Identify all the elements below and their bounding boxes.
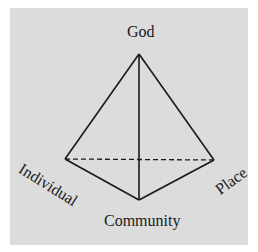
edge-god-place: [139, 54, 214, 160]
vertex-label-community: Community: [104, 212, 180, 230]
vertex-label-god: God: [127, 23, 155, 41]
edge-community-place: [139, 160, 214, 200]
edge-individual-place-dashed: [65, 159, 214, 160]
edge-god-individual: [65, 54, 139, 159]
